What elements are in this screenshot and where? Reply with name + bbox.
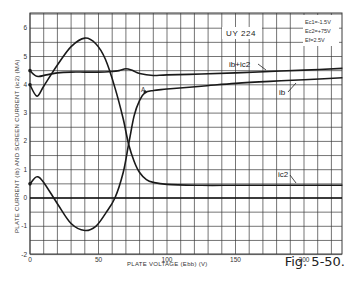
start-point-marker xyxy=(28,69,32,73)
x-tick-label: 150 xyxy=(230,256,241,263)
start-point-marker xyxy=(28,83,32,87)
x-tick-label: 50 xyxy=(95,256,103,263)
condition-ef: Ef=2.5V xyxy=(305,37,325,43)
y-tick-label: 0 xyxy=(23,194,27,201)
arrow-ib-plus-ic2 xyxy=(258,64,266,70)
curve-ic2 xyxy=(30,38,342,185)
curve-ib xyxy=(30,78,342,231)
y-tick-label: 3 xyxy=(23,109,27,116)
x-tick-label: 0 xyxy=(28,256,32,263)
curve-ib-plus-ic2 xyxy=(30,68,342,76)
chart-figure: 050100150200-2-10123456 UY 224 Ec1=-1.5V… xyxy=(0,0,355,282)
figure-caption: Fig. 5-50. xyxy=(285,254,345,269)
arrow-ic2 xyxy=(290,175,296,183)
start-point-marker xyxy=(28,182,32,186)
axes xyxy=(30,13,342,254)
y-tick-label: -2 xyxy=(21,251,27,258)
data-curves xyxy=(28,38,342,231)
tick-labels: 050100150200-2-10123456 xyxy=(21,24,310,263)
y-tick-label: -1 xyxy=(21,222,27,229)
condition-ec1: Ec1=-1.5V xyxy=(305,19,331,25)
grid-lines xyxy=(30,13,342,255)
point-a-label: A xyxy=(141,86,146,93)
y-tick-label: 1 xyxy=(23,166,27,173)
condition-ec2: Ec2=+75V xyxy=(305,28,331,34)
y-axis-label: PLATE CURRENT (ib) AND SCREEN CURRENT (i… xyxy=(14,59,20,233)
x-axis-label: PLATE VOLTAGE (Ebb) (V) xyxy=(127,261,208,267)
chart-title: UY 224 xyxy=(226,29,256,38)
plot-border xyxy=(30,13,342,254)
y-tick-label: 2 xyxy=(23,137,27,144)
label-ib: ib xyxy=(279,88,286,97)
arrow-ib xyxy=(288,83,296,92)
y-tick-label: 4 xyxy=(23,81,27,88)
y-tick-label: 5 xyxy=(23,53,27,60)
y-tick-label: 6 xyxy=(23,24,27,31)
label-ic2: ic2 xyxy=(278,170,289,179)
label-ib-plus-ic2: ib+ic2 xyxy=(229,60,251,69)
